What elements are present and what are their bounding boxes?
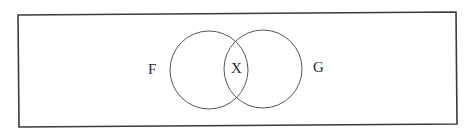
set-g-label: G xyxy=(313,59,324,75)
venn-diagram: F X G xyxy=(0,0,474,133)
intersection-x-label: X xyxy=(231,60,242,76)
set-f-label: F xyxy=(148,61,156,77)
